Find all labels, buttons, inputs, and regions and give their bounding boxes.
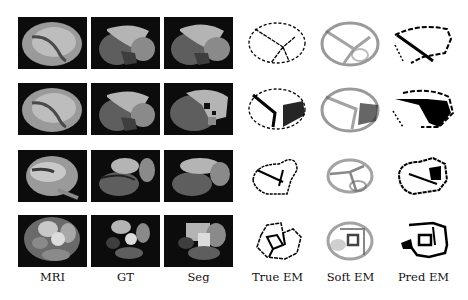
mri-panel-row2 (18, 83, 87, 135)
gt-panel-row1 (91, 17, 160, 69)
column-label-gt: GT (91, 270, 160, 284)
pred-em-panel-row2 (389, 83, 458, 135)
gt-panel-row2 (91, 83, 160, 135)
column-label-soft-em: Soft EM (316, 270, 385, 284)
true-em-panel-row4 (243, 215, 312, 267)
soft-em-panel-row1 (316, 17, 385, 69)
column-label-mri: MRI (18, 270, 87, 284)
gt-panel-row3 (91, 150, 160, 202)
mri-panel-row4 (18, 215, 87, 267)
seg-panel-row3 (164, 150, 233, 202)
true-em-panel-row3 (243, 150, 312, 202)
seg-panel-row2 (164, 83, 233, 135)
pred-em-panel-row4 (389, 215, 458, 267)
pred-em-panel-row3 (389, 150, 458, 202)
soft-em-panel-row3 (316, 150, 385, 202)
mri-panel-row3 (18, 150, 87, 202)
column-label-pred-em: Pred EM (389, 270, 458, 284)
seg-panel-row1 (164, 17, 233, 69)
true-em-panel-row1 (243, 17, 312, 69)
column-label-true-em: True EM (243, 270, 312, 284)
column-label-seg: Seg (164, 270, 233, 284)
true-em-panel-row2 (243, 83, 312, 135)
soft-em-panel-row2 (316, 83, 385, 135)
soft-em-panel-row4 (316, 215, 385, 267)
seg-panel-row4 (164, 215, 233, 267)
mri-panel-row1 (18, 17, 87, 69)
pred-em-panel-row1 (389, 17, 458, 69)
gt-panel-row4 (91, 215, 160, 267)
